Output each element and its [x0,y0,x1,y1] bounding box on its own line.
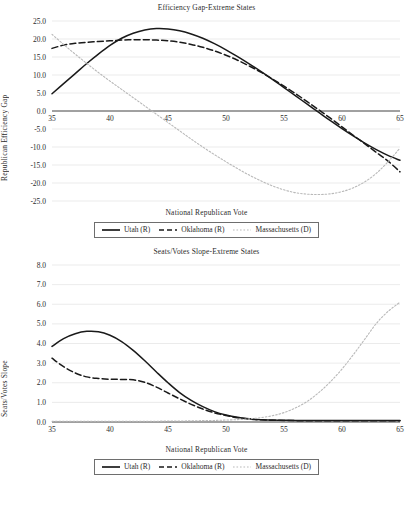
legend-label: Oklahoma (R) [181,225,224,234]
svg-text:-5.0: -5.0 [34,125,46,134]
legend-swatch-solid [102,464,120,470]
legend-item: Massachusetts (D) [233,462,311,471]
legend-label: Massachusetts (D) [255,225,311,234]
legend-label: Utah (R) [124,225,150,234]
svg-text:1.0: 1.0 [37,398,47,407]
svg-text:-20.0: -20.0 [30,179,46,188]
legend-item: Massachusetts (D) [233,225,311,234]
svg-text:8.0: 8.0 [37,261,47,270]
chart-legend: Utah (R)Oklahoma (R)Massachusetts (D) [0,222,413,238]
svg-text:15.0: 15.0 [33,53,46,62]
legend-swatch-solid [102,227,120,233]
svg-text:60: 60 [338,114,346,123]
x-axis-title: National Republican Vote [0,208,413,217]
chart-seats-votes-slope: Seats/Votes Slope-Extreme States Seats/V… [0,244,413,475]
legend-swatch-dotted [233,227,251,233]
svg-text:-25.0: -25.0 [30,197,46,206]
legend-item: Utah (R) [102,225,150,234]
chart-title: Efficiency Gap-Extreme States [0,0,413,13]
svg-text:5.0: 5.0 [37,89,47,98]
legend-label: Oklahoma (R) [181,462,224,471]
legend-item: Oklahoma (R) [159,225,224,234]
svg-text:-10.0: -10.0 [30,143,46,152]
svg-text:50: 50 [222,114,230,123]
legend-label: Massachusetts (D) [255,462,311,471]
legend-swatch-dotted [233,464,251,470]
svg-text:60: 60 [338,425,346,434]
legend-item: Utah (R) [102,462,150,471]
svg-text:40: 40 [106,114,114,123]
series-line [52,28,400,160]
legend-label: Utah (R) [124,462,150,471]
svg-text:55: 55 [280,425,288,434]
legend-swatch-dashed [159,227,177,233]
chart-legend: Utah (R)Oklahoma (R)Massachusetts (D) [0,459,413,475]
legend-swatch-dashed [159,464,177,470]
svg-text:4.0: 4.0 [37,339,47,348]
svg-text:35: 35 [48,425,56,434]
y-axis-title: Seats/Votes Slope [0,277,9,417]
svg-text:-15.0: -15.0 [30,161,46,170]
series-line [52,40,400,172]
svg-text:45: 45 [164,425,172,434]
svg-text:7.0: 7.0 [37,280,47,289]
legend-item: Oklahoma (R) [159,462,224,471]
svg-text:6.0: 6.0 [37,300,47,309]
legend-box: Utah (R)Oklahoma (R)Massachusetts (D) [94,222,319,238]
svg-text:65: 65 [396,114,404,123]
series-line [52,302,400,421]
svg-text:5.0: 5.0 [37,319,47,328]
chart-title: Seats/Votes Slope-Extreme States [0,244,413,257]
svg-text:10.0: 10.0 [33,71,46,80]
svg-text:35: 35 [48,114,56,123]
svg-text:25.0: 25.0 [33,17,46,26]
plot-svg: 25.020.015.010.05.00.0-5.0-10.0-15.0-20.… [0,13,413,208]
svg-text:50: 50 [222,425,230,434]
series-line [52,331,400,420]
svg-text:2.0: 2.0 [37,378,47,387]
svg-text:0.0: 0.0 [37,418,47,427]
svg-text:55: 55 [280,114,288,123]
chart-efficiency-gap: Efficiency Gap-Extreme States Republican… [0,0,413,238]
svg-text:65: 65 [396,425,404,434]
svg-text:3.0: 3.0 [37,359,47,368]
svg-text:20.0: 20.0 [33,35,46,44]
svg-text:0.0: 0.0 [37,107,47,116]
svg-text:40: 40 [106,425,114,434]
x-axis-title: National Republican Vote [0,445,413,454]
figure-container: Efficiency Gap-Extreme States Republican… [0,0,413,475]
svg-text:45: 45 [164,114,172,123]
legend-box: Utah (R)Oklahoma (R)Massachusetts (D) [94,459,319,475]
plot-area-wrapper: Seats/Votes Slope 8.07.06.05.04.03.02.01… [0,257,413,445]
y-axis-title: Republican Efficiency Gap [0,31,9,181]
plot-svg: 8.07.06.05.04.03.02.01.00.03540455055606… [0,257,413,445]
series-line [52,358,400,420]
plot-area-wrapper: Republican Efficiency Gap 25.020.015.010… [0,13,413,208]
